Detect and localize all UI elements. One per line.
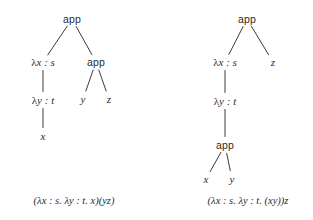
tree-edge xyxy=(210,152,221,171)
tree-edge xyxy=(48,26,68,55)
tree-node-l-root: app xyxy=(63,14,81,25)
tree-edge xyxy=(99,70,106,91)
tree-edge xyxy=(86,70,93,91)
tree-node-l-x: x xyxy=(41,131,46,142)
tree-node-r-z: z xyxy=(271,57,275,68)
tree-edge xyxy=(76,26,92,54)
tree-node-l-app2: app xyxy=(87,57,105,68)
tree-node-r-root: app xyxy=(238,14,256,25)
left-caption: (λx : s. λy : t. x)(yz) xyxy=(34,196,115,207)
tree-node-l-y: y xyxy=(81,94,86,105)
tree-node-r-y: y xyxy=(230,174,235,185)
tree-node-r-x: x xyxy=(204,174,209,185)
tree-edge xyxy=(227,153,231,170)
right-caption: (λx : s. λy : t. (xy))z xyxy=(208,196,289,207)
tree-node-r-lamy: λy : t xyxy=(214,96,236,107)
tree-node-r-lamx: λx : s xyxy=(213,57,237,68)
binder-text: y : t xyxy=(219,95,236,107)
tree-edges-layer xyxy=(0,0,313,220)
tree-edge xyxy=(229,27,243,55)
tree-edge xyxy=(251,26,268,54)
derivation-tree-figure: appλx : sappλy : tyzxappλx : szλy : tapp… xyxy=(0,0,313,220)
tree-node-r-app2: app xyxy=(216,140,234,151)
tree-node-l-lamx: λx : s xyxy=(31,57,55,68)
tree-node-l-lamy: λy : t xyxy=(32,95,54,106)
binder-text: x : s xyxy=(37,56,55,68)
binder-text: x : s xyxy=(219,56,237,68)
binder-text: y : t xyxy=(37,94,54,106)
tree-node-l-z: z xyxy=(107,94,111,105)
